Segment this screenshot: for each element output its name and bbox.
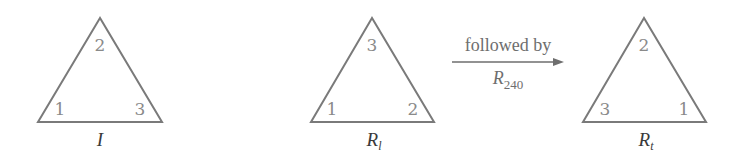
triangle-caption: I: [97, 130, 103, 152]
arrow-label-main: R: [493, 68, 504, 88]
caption-main: R: [367, 129, 379, 150]
triangle-caption: Rt: [639, 130, 654, 152]
vertex-label-bottom-right: 3: [135, 101, 146, 118]
arrow-label-above: followed by: [465, 36, 551, 54]
vertex-label-bottom-right: 1: [679, 101, 690, 118]
vertex-label-top: 2: [639, 37, 650, 54]
right-arrow-icon: [452, 58, 564, 66]
caption-subscript: l: [378, 139, 381, 153]
vertex-label-top: 2: [95, 37, 106, 54]
triangle-symmetry-diagram: 2 1 3 I 3 1 2 Rl followed by R240 2 3 1 …: [0, 0, 744, 158]
vertex-label-top: 3: [367, 37, 378, 54]
triangle-caption: Rl: [367, 130, 382, 152]
arrow-label-subscript: 240: [504, 77, 524, 92]
vertex-label-bottom-left: 3: [600, 101, 611, 118]
vertex-label-bottom-left: 1: [327, 101, 338, 118]
caption-main: R: [639, 129, 651, 150]
arrow-label-below: R240: [493, 69, 524, 91]
caption-main: I: [97, 129, 103, 150]
vertex-label-bottom-left: 1: [55, 101, 66, 118]
caption-subscript: t: [650, 139, 653, 153]
vertex-label-bottom-right: 2: [408, 101, 419, 118]
